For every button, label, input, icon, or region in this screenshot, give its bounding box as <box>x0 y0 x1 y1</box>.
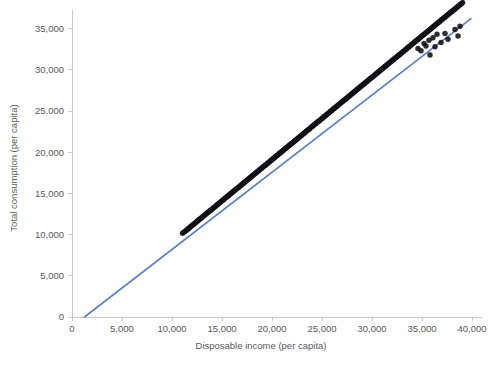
y-tick-label: 25,000 <box>35 105 64 116</box>
scatter-point <box>452 27 458 32</box>
scatter-point <box>460 0 466 5</box>
y-tick-label: 10,000 <box>35 229 64 240</box>
scatter-point <box>438 40 444 46</box>
scatter-chart: 05,00010,00015,00020,00025,00030,00035,0… <box>0 0 490 366</box>
scatter-point <box>427 52 433 58</box>
x-tick-label: 25,000 <box>307 323 336 334</box>
x-axis-title-text: Disposable income (per capita) <box>196 340 327 351</box>
y-tick-label: 15,000 <box>35 188 64 199</box>
x-tick-label: 5,000 <box>110 323 134 334</box>
x-tick-label: 10,000 <box>157 323 186 334</box>
y-axis-title: Total consumption (per capita) <box>8 104 19 231</box>
chart-canvas: 05,00010,00015,00020,00025,00030,00035,0… <box>0 0 490 366</box>
scatter-point <box>423 43 429 49</box>
scatter-point <box>434 32 440 38</box>
scatter-point <box>457 23 463 29</box>
y-tick-label: 20,000 <box>35 147 64 158</box>
x-tick-label: 15,000 <box>207 323 236 334</box>
y-tick-label: 5,000 <box>40 270 64 281</box>
y-axis-title-text: Total consumption (per capita) <box>8 104 19 231</box>
scatter-point <box>455 33 461 39</box>
x-tick-label: 40,000 <box>457 323 486 334</box>
x-tick-label: 30,000 <box>357 323 386 334</box>
scatter-point <box>445 37 451 43</box>
x-axis-title: Disposable income (per capita) <box>196 340 327 351</box>
scatter-point <box>442 31 448 37</box>
scatter-point <box>418 48 424 54</box>
x-tick-label: 0 <box>69 323 74 334</box>
y-tick-label: 0 <box>59 311 64 322</box>
x-tick-label: 20,000 <box>257 323 286 334</box>
scatter-point <box>432 44 438 50</box>
x-tick-label: 35,000 <box>407 323 436 334</box>
y-tick-label: 30,000 <box>35 64 64 75</box>
y-tick-label: 35,000 <box>35 23 64 34</box>
